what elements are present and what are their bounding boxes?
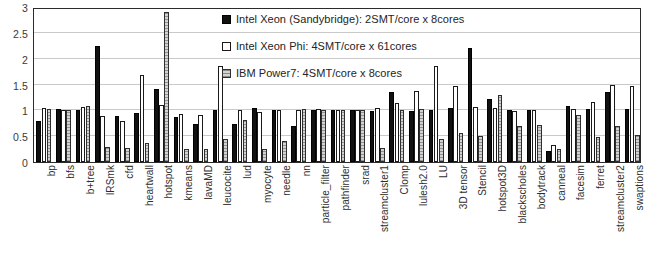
bar <box>81 107 86 162</box>
bar-group <box>73 9 93 162</box>
bar <box>498 95 503 162</box>
bar <box>591 102 596 162</box>
legend-label-ibm-power7: IBM Power7: 4SMT/core x 8cores <box>236 67 402 79</box>
bar <box>76 110 81 162</box>
bar <box>571 109 576 162</box>
bar <box>439 139 444 162</box>
x-axis-tick-label-text: lulesh2.0 <box>419 165 429 206</box>
bar <box>380 148 385 162</box>
x-axis-tick-label: b+tree <box>86 165 96 194</box>
legend-swatch-icon-sandybridge <box>222 15 231 24</box>
bar <box>375 108 380 162</box>
bar <box>302 109 307 162</box>
bar-group <box>93 9 113 162</box>
x-axis-tick-label: lRSmk <box>106 165 116 195</box>
bar <box>532 110 537 162</box>
bar <box>395 103 400 162</box>
bar <box>95 46 100 162</box>
bar <box>223 139 228 162</box>
bar <box>56 109 61 162</box>
bar <box>184 149 189 162</box>
bar <box>473 107 478 162</box>
x-axis-tick-label-text: heartwall <box>145 165 155 206</box>
x-axis-tick-label: myocyte <box>263 165 273 203</box>
x-axis-tick-label-text: myocyte <box>263 165 273 203</box>
x-axis-tick-label: swaptions <box>635 165 645 210</box>
bar <box>316 109 321 162</box>
bar-group <box>152 9 172 162</box>
x-axis-tick-label-text: b+tree <box>86 165 96 194</box>
bar <box>164 12 169 162</box>
bar <box>512 111 517 162</box>
bar <box>331 110 336 162</box>
bar <box>429 110 434 162</box>
x-axis-tick-label-text: lud <box>243 165 253 179</box>
x-axis-tick-label: streamcluster1 <box>380 165 390 232</box>
y-tick-label: 0.5 <box>13 131 28 143</box>
x-axis-tick-label: bp <box>47 165 57 176</box>
x-axis-tick-label-text: nn <box>302 165 312 176</box>
x-axis-tick-label: streamcluster2 <box>616 165 626 232</box>
bar <box>105 147 110 163</box>
bar <box>291 126 296 162</box>
bar <box>159 105 164 162</box>
bar <box>47 109 52 162</box>
x-axis-tick-label: leucocite <box>223 165 233 205</box>
bar <box>66 110 71 162</box>
bar <box>610 85 615 163</box>
bar <box>232 124 237 162</box>
x-axis-tick-label-text: pathfinder <box>341 165 351 210</box>
bar-group <box>191 9 211 162</box>
x-axis-tick-label-text: particle_filter <box>321 165 331 223</box>
bar <box>36 121 41 162</box>
x-axis-tick-label: Stencil <box>478 165 488 196</box>
bar-group <box>544 9 564 162</box>
x-axis-tick-label-text: blackscholes <box>518 165 528 223</box>
bar <box>517 126 522 162</box>
bar <box>198 115 203 162</box>
bar <box>596 137 601 162</box>
bar <box>115 116 120 162</box>
bar <box>145 143 150 162</box>
x-axis-tick-label-text: leucocite <box>223 165 233 205</box>
x-axis-tick-label-text: facesim <box>576 165 586 200</box>
bar <box>487 99 492 162</box>
bar <box>42 108 47 162</box>
bar <box>204 149 209 162</box>
bar <box>154 89 159 162</box>
x-axis-tick-label-text: canneal <box>557 165 567 201</box>
bar <box>238 110 243 162</box>
x-axis-tick-label-text: bp <box>47 165 57 176</box>
x-axis-tick-label-text: Stencil <box>478 165 488 196</box>
bar <box>630 86 635 162</box>
x-axis-tick-label-text: kmeans <box>184 165 194 201</box>
bar-group <box>583 9 603 162</box>
x-axis-tick-label: facesim <box>576 165 586 200</box>
x-axis-tick-label-text: cfd <box>125 165 135 179</box>
x-axis-tick-label: bfs <box>66 165 76 179</box>
bar <box>448 108 453 162</box>
bar <box>527 110 532 162</box>
legend-swatch-icon-ibm-power7 <box>222 69 231 78</box>
x-axis-tick-label: particle_filter <box>321 165 331 223</box>
bar <box>350 110 355 162</box>
x-axis-tick-label: needle <box>282 165 292 196</box>
chart-legend: Intel Xeon (Sandybridge): 2SMT/core x 8c… <box>222 8 522 89</box>
bar <box>341 110 346 162</box>
bar <box>546 151 551 162</box>
x-axis-tick-label: lavaMD <box>204 165 214 200</box>
x-axis-tick-label: cfd <box>125 165 135 179</box>
x-axis-tick-label: 3D tensor <box>459 165 469 209</box>
x-axis-tick-label-text: swaptions <box>635 165 645 210</box>
bar <box>243 120 248 162</box>
bar <box>125 148 130 162</box>
bar <box>179 114 184 162</box>
bar <box>262 149 267 162</box>
bar <box>419 109 424 162</box>
legend-label-xeon-phi: Intel Xeon Phi: 4SMT/core x 61cores <box>236 40 417 52</box>
bar <box>257 112 262 162</box>
x-axis-tick-label: lulesh2.0 <box>419 165 429 206</box>
bar <box>586 109 591 162</box>
bar <box>389 92 394 162</box>
x-axis-tick-label-text: streamcluster1 <box>380 165 390 232</box>
